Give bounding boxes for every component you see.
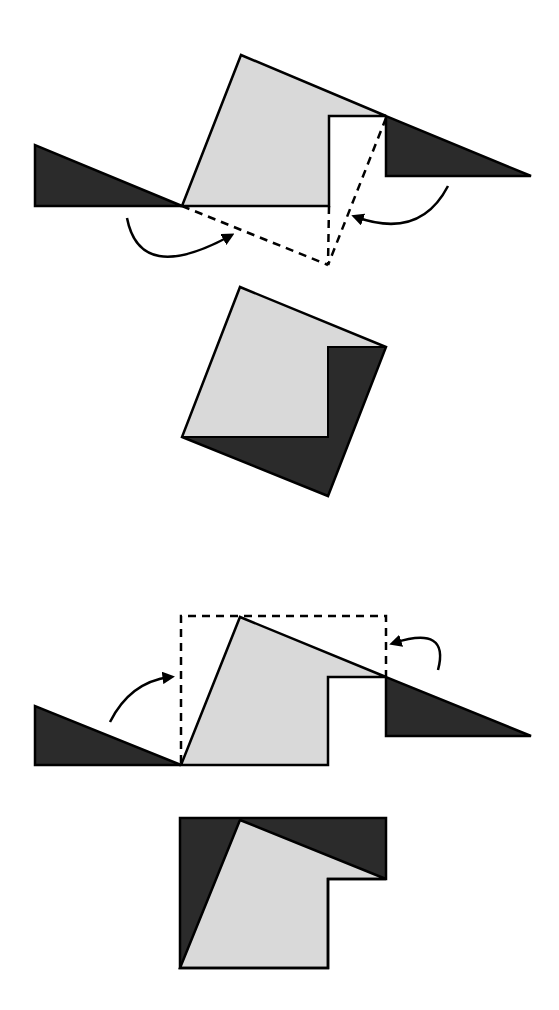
right-dark-triangle <box>386 677 531 736</box>
rotation-arrow-icon <box>110 677 170 722</box>
figure-3-rotation-to-rectangle <box>35 616 531 765</box>
dashed-fold-line <box>328 118 386 265</box>
dissection-diagram <box>0 0 559 1010</box>
rotation-arrow-icon <box>394 638 440 670</box>
dashed-fold-line <box>182 206 328 265</box>
figure-1-rotation-to-square <box>35 55 531 265</box>
figure-2-resulting-square <box>182 287 386 496</box>
dashed-fold-line <box>328 206 329 265</box>
light-shape <box>182 55 386 206</box>
right-dark-triangle <box>386 116 531 176</box>
left-dark-triangle <box>35 706 181 765</box>
light-shape <box>181 617 386 765</box>
rotation-arrow-icon <box>127 218 230 257</box>
rotation-arrow-icon <box>356 186 448 224</box>
figure-4-resulting-l-shape <box>180 818 386 968</box>
left-dark-triangle <box>35 145 182 206</box>
